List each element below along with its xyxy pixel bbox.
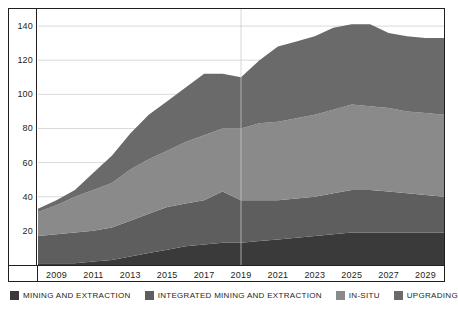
legend-label: MINING AND EXTRACTION	[23, 291, 131, 300]
legend-item-mining-and-extraction[interactable]: MINING AND EXTRACTION	[10, 291, 131, 300]
legend-swatch-icon	[145, 291, 154, 300]
x-axis-tick-2011: 2011	[83, 270, 103, 280]
stacked-area-chart	[38, 9, 444, 265]
x-axis-tick-2021: 2021	[267, 270, 288, 280]
y-axis-tick-40: 40	[23, 192, 33, 202]
legend-item-in-situ[interactable]: IN-SITU	[336, 291, 380, 300]
legend-swatch-icon	[336, 291, 345, 300]
legend-item-integrated-mining-and-extraction[interactable]: INTEGRATED MINING AND EXTRACTION	[145, 291, 322, 300]
x-axis-tick-labels: 2009201120132015201720192021202320252027…	[38, 265, 444, 283]
x-axis-tick-2019: 2019	[231, 270, 252, 280]
y-axis-tick-100: 100	[17, 89, 33, 99]
chart-frame: 20406080100120140 2009201120132015201720…	[8, 8, 445, 282]
legend-item-upgrading[interactable]: UPGRADING	[394, 291, 458, 300]
legend-label: IN-SITU	[349, 291, 380, 300]
legend-label: INTEGRATED MINING AND EXTRACTION	[158, 291, 322, 300]
y-axis-tick-20: 20	[23, 226, 33, 236]
y-axis-tick-140: 140	[17, 21, 33, 31]
x-axis-tick-2027: 2027	[378, 270, 399, 280]
y-axis-tick-labels: 20406080100120140	[9, 9, 37, 265]
x-axis-tick-2009: 2009	[46, 270, 67, 280]
y-axis-column: 20406080100120140	[9, 9, 37, 265]
plot-area	[38, 9, 444, 265]
y-axis-tick-60: 60	[23, 158, 33, 168]
legend-swatch-icon	[394, 291, 403, 300]
x-axis-tick-2015: 2015	[157, 270, 178, 280]
legend-swatch-icon	[10, 291, 19, 300]
x-axis-tick-2017: 2017	[194, 270, 215, 280]
x-axis-tick-2023: 2023	[304, 270, 325, 280]
x-axis-corner	[9, 265, 38, 282]
x-axis-tick-2025: 2025	[341, 270, 362, 280]
x-axis-tick-2029: 2029	[415, 270, 436, 280]
y-axis-tick-120: 120	[17, 55, 33, 65]
legend-label: UPGRADING	[407, 291, 458, 300]
chart-legend: MINING AND EXTRACTIONINTEGRATED MINING A…	[10, 291, 458, 300]
x-axis-tick-2013: 2013	[120, 270, 141, 280]
y-axis-tick-80: 80	[23, 123, 33, 133]
